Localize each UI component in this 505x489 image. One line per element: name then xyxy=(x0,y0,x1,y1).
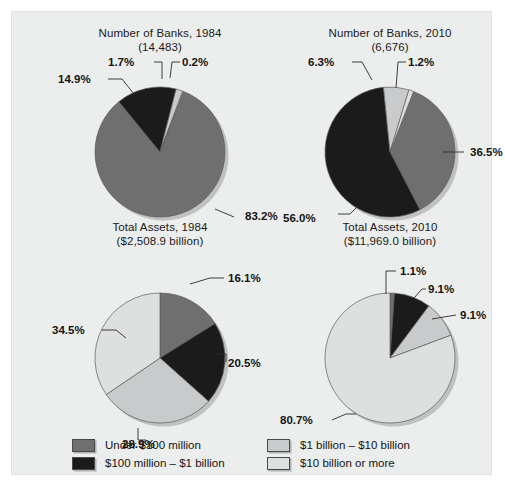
chart-title-main: Number of Banks, 1984 xyxy=(99,27,222,39)
legend-entry: $100 million – $1 billion xyxy=(72,455,247,471)
leader-line xyxy=(352,62,372,80)
slice-percent-label: 16.1% xyxy=(228,272,261,284)
pie-svg-total-assets-1984: 16.1%20.5%28.9%34.5% xyxy=(50,248,270,463)
pie-chart-total-assets-2010: Total Assets, 2010($11,969.0 billion)1.1… xyxy=(280,220,500,463)
chart-subtitle: (14,483) xyxy=(50,40,270,54)
leader-line xyxy=(108,79,134,94)
chart-title-total-assets-1984: Total Assets, 1984($2,508.9 billion) xyxy=(50,220,270,248)
slice-percent-label: 36.5% xyxy=(470,146,503,158)
chart-subtitle: ($11,969.0 billion) xyxy=(280,234,500,248)
leader-line xyxy=(170,62,180,78)
leader-line xyxy=(414,289,426,298)
slice-percent-label: 20.5% xyxy=(228,357,261,369)
chart-title-number-of-banks-2010: Number of Banks, 2010(6,676) xyxy=(280,26,500,54)
legend-swatch-icon xyxy=(72,457,95,470)
slice-percent-label: 1.2% xyxy=(408,56,434,68)
slice-percent-label: 1.7% xyxy=(108,56,134,68)
legend-swatch-icon xyxy=(72,439,95,452)
slice-percent-label: 6.3% xyxy=(308,56,334,68)
legend-label: $10 billion or more xyxy=(300,457,395,469)
legend-label: Under $100 million xyxy=(105,439,201,451)
leader-line xyxy=(215,209,234,217)
legend-entry: Under $100 million xyxy=(72,437,247,453)
chart-subtitle: ($2,508.9 billion) xyxy=(50,234,270,248)
slice-percent-label: 9.1% xyxy=(428,283,454,295)
legend-label: $100 million – $1 billion xyxy=(105,457,225,469)
legend-entry: $10 billion or more xyxy=(267,455,442,471)
pie-svg-total-assets-2010: 1.1%9.1%9.1%80.7% xyxy=(280,248,500,463)
pie-chart-total-assets-1984: Total Assets, 1984($2,508.9 billion)16.1… xyxy=(50,220,270,463)
slice-percent-label: 9.1% xyxy=(460,309,486,321)
chart-title-number-of-banks-1984: Number of Banks, 1984(14,483) xyxy=(50,26,270,54)
legend-entry: $1 billion – $10 billion xyxy=(267,437,442,453)
slice-percent-label: 80.7% xyxy=(280,414,313,426)
leader-line xyxy=(154,62,162,79)
leader-line xyxy=(332,414,356,420)
slice-percent-label: 34.5% xyxy=(52,324,85,336)
chart-legend: Under $100 million$1 billion – $10 billi… xyxy=(72,437,442,471)
leader-line xyxy=(386,271,396,294)
chart-title-main: Number of Banks, 2010 xyxy=(329,27,452,39)
leader-line xyxy=(396,62,406,88)
slice-percent-label: 14.9% xyxy=(58,73,91,85)
leader-line xyxy=(190,278,224,284)
figure-panel: Number of Banks, 1984(14,483)83.2%14.9%1… xyxy=(11,11,492,475)
legend-swatch-icon xyxy=(267,439,290,452)
chart-title-total-assets-2010: Total Assets, 2010($11,969.0 billion) xyxy=(280,220,500,248)
chart-subtitle: (6,676) xyxy=(280,40,500,54)
slice-percent-label: 0.2% xyxy=(182,56,208,68)
slice-percent-label: 1.1% xyxy=(400,265,426,277)
chart-title-main: Total Assets, 2010 xyxy=(342,221,437,233)
chart-title-main: Total Assets, 1984 xyxy=(112,221,207,233)
legend-swatch-icon xyxy=(267,457,290,470)
legend-label: $1 billion – $10 billion xyxy=(300,439,410,451)
